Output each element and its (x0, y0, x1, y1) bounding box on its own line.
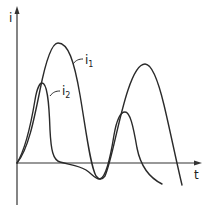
label-i2: i2 (50, 84, 70, 100)
y-axis-label: i (9, 11, 12, 25)
label-i2-subscript: 2 (65, 91, 70, 100)
leader-line-i1 (73, 59, 83, 64)
y-axis-arrow-icon (15, 6, 20, 14)
x-axis-label: t (194, 168, 199, 182)
label-i1-subscript: 1 (88, 60, 93, 69)
x-axis-arrow-icon (194, 161, 202, 166)
leader-line-i2 (50, 91, 60, 96)
y-axis: i (9, 6, 20, 205)
label-i1: i1 (73, 53, 93, 69)
waveform-diagram: i t i1 i2 (0, 0, 211, 213)
svg-text:i1: i1 (85, 53, 93, 69)
svg-text:i2: i2 (62, 84, 70, 100)
curve-i1 (17, 43, 182, 185)
